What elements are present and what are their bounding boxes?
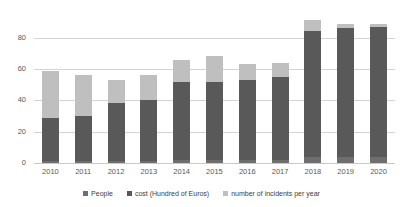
bar-group[interactable] [297, 22, 330, 163]
bar-stack[interactable] [304, 20, 321, 163]
bar-stack[interactable] [337, 24, 354, 163]
bar-segment[interactable] [173, 160, 190, 163]
y-axis: 806040200 [0, 22, 30, 163]
legend-swatch-icon [83, 191, 88, 196]
bar-stack[interactable] [75, 75, 92, 163]
bar-stack[interactable] [239, 64, 256, 163]
bar-stack[interactable] [140, 75, 157, 163]
y-axis-tick-label: 60 [18, 65, 26, 73]
x-axis-tick-label: 2011 [67, 165, 100, 179]
bar-group[interactable] [362, 22, 395, 163]
x-axis-tick-label: 2018 [297, 165, 330, 179]
bar-segment[interactable] [140, 161, 157, 163]
x-axis-tick-label: 2016 [231, 165, 264, 179]
bar-segment[interactable] [206, 160, 223, 163]
bar-group[interactable] [198, 22, 231, 163]
bar-group[interactable] [100, 22, 133, 163]
bar-segment[interactable] [75, 161, 92, 163]
x-axis-tick-label: 2017 [264, 165, 297, 179]
bar-segment[interactable] [239, 80, 256, 160]
bar-segment[interactable] [173, 60, 190, 82]
bar-segment[interactable] [75, 116, 92, 161]
x-axis: 2010201120122013201420152016201720182019… [34, 165, 395, 179]
bar-group[interactable] [67, 22, 100, 163]
x-axis-tick-label: 2015 [198, 165, 231, 179]
legend-item[interactable]: cost (Hundred of Euros) [127, 190, 209, 197]
bar-segment[interactable] [272, 63, 289, 77]
bar-stack[interactable] [173, 60, 190, 163]
legend-item-label: People [91, 190, 113, 197]
bar-segment[interactable] [108, 161, 125, 163]
bar-group[interactable] [132, 22, 165, 163]
bar-stack[interactable] [370, 24, 387, 163]
bar-segment[interactable] [272, 77, 289, 160]
bar-segment[interactable] [108, 103, 125, 161]
bar-series-container [34, 22, 395, 163]
bar-segment[interactable] [239, 160, 256, 163]
x-axis-tick-label: 2013 [132, 165, 165, 179]
bar-segment[interactable] [370, 27, 387, 157]
chart-legend: Peoplecost (Hundred of Euros)number of i… [0, 186, 403, 200]
bar-segment[interactable] [42, 71, 59, 118]
x-axis-tick-label: 2020 [362, 165, 395, 179]
y-axis-tick-label: 80 [18, 34, 26, 42]
bar-segment[interactable] [140, 100, 157, 161]
x-axis-tick-label: 2014 [165, 165, 198, 179]
y-axis-tick-label: 40 [18, 97, 26, 105]
bar-group[interactable] [329, 22, 362, 163]
bar-segment[interactable] [337, 28, 354, 156]
bar-group[interactable] [231, 22, 264, 163]
bar-group[interactable] [34, 22, 67, 163]
bar-segment[interactable] [42, 118, 59, 162]
gridline [34, 163, 395, 164]
x-axis-tick-label: 2012 [100, 165, 133, 179]
bar-segment[interactable] [108, 80, 125, 104]
legend-swatch-icon [223, 191, 228, 196]
bar-segment[interactable] [239, 64, 256, 80]
bar-segment[interactable] [206, 82, 223, 160]
y-axis-tick-label: 0 [22, 159, 26, 167]
x-axis-tick-label: 2019 [329, 165, 362, 179]
bar-segment[interactable] [304, 20, 321, 31]
bar-segment[interactable] [206, 56, 223, 81]
bar-segment[interactable] [337, 157, 354, 163]
bar-stack[interactable] [206, 56, 223, 163]
stacked-bar-chart: 806040200 201020112012201320142015201620… [0, 0, 403, 207]
bar-segment[interactable] [140, 75, 157, 100]
bar-segment[interactable] [370, 157, 387, 163]
bar-stack[interactable] [108, 80, 125, 163]
bar-segment[interactable] [304, 31, 321, 156]
legend-item-label: cost (Hundred of Euros) [135, 190, 209, 197]
bar-group[interactable] [165, 22, 198, 163]
bar-segment[interactable] [75, 75, 92, 116]
legend-swatch-icon [127, 191, 132, 196]
x-axis-tick-label: 2010 [34, 165, 67, 179]
legend-item-label: number of incidents per year [231, 190, 320, 197]
bar-segment[interactable] [272, 160, 289, 163]
bar-segment[interactable] [42, 161, 59, 163]
y-axis-tick-label: 20 [18, 128, 26, 136]
bar-group[interactable] [264, 22, 297, 163]
bar-stack[interactable] [42, 71, 59, 163]
legend-item[interactable]: People [83, 190, 113, 197]
bar-segment[interactable] [173, 82, 190, 160]
bar-stack[interactable] [272, 63, 289, 163]
legend-item[interactable]: number of incidents per year [223, 190, 320, 197]
bar-segment[interactable] [304, 157, 321, 163]
